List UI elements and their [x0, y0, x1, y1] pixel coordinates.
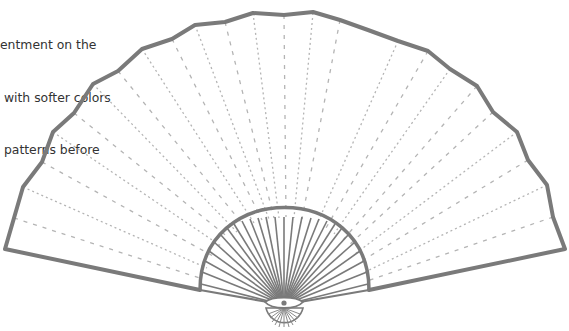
hub-base	[266, 308, 303, 327]
fan-leaf-outline	[5, 12, 565, 290]
pivot-rivet-icon	[281, 300, 286, 305]
fan-illustration	[0, 0, 569, 331]
